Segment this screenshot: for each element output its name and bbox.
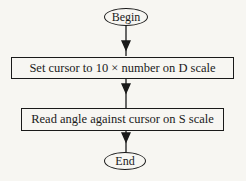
arrowhead-icon (122, 41, 130, 50)
step1-label: Set cursor to 10 × number on D scale (29, 61, 215, 76)
step2-label: Read angle against cursor on S scale (31, 112, 214, 127)
arrowhead-icon (122, 84, 130, 93)
begin-label: Begin (112, 10, 141, 25)
arrowhead-icon (122, 133, 130, 142)
begin-terminator: Begin (104, 8, 148, 26)
end-terminator: End (104, 152, 146, 170)
process-step-set-cursor: Set cursor to 10 × number on D scale (11, 57, 234, 79)
process-step-read-angle: Read angle against cursor on S scale (21, 108, 224, 131)
end-label: End (115, 154, 134, 169)
